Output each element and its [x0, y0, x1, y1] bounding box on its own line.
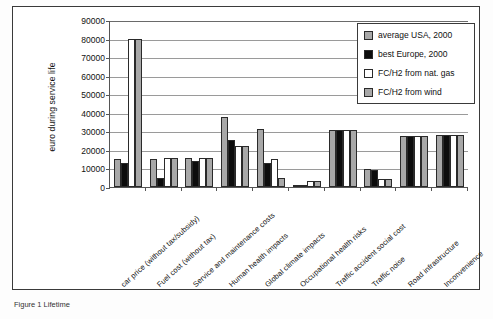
legend-item-label: FC/H2 from nat. gas	[378, 68, 455, 78]
bar	[371, 170, 378, 187]
x-axis-label: Global climate impacts	[263, 230, 327, 289]
bar	[221, 117, 228, 188]
bar	[157, 178, 164, 187]
bar	[378, 179, 385, 187]
x-tick-mark	[395, 187, 396, 191]
x-tick-mark	[181, 187, 182, 191]
bar-group	[253, 21, 289, 187]
bar	[257, 129, 264, 187]
bar	[450, 135, 457, 187]
x-tick-mark	[360, 187, 361, 191]
bar	[314, 181, 321, 187]
chart-frame: euro during service life 010000200003000…	[12, 6, 480, 290]
bar	[264, 163, 271, 187]
legend-swatch-icon	[364, 31, 373, 40]
bar	[192, 161, 199, 187]
bar-group	[217, 21, 253, 187]
bar-group	[182, 21, 218, 187]
x-tick-mark	[288, 187, 289, 191]
bar	[350, 130, 357, 187]
figure-caption: Figure 1 Lifetime	[14, 300, 70, 309]
legend-item-label: average USA, 2000	[378, 30, 452, 40]
chart-legend: average USA, 2000best Europe, 2000FC/H2 …	[357, 23, 475, 104]
bar	[185, 158, 192, 187]
bar	[400, 136, 407, 187]
y-tick-label: 0	[100, 183, 105, 193]
bar	[407, 136, 414, 187]
x-tick-mark	[145, 187, 146, 191]
legend-item[interactable]: average USA, 2000	[364, 30, 469, 40]
bar-group	[289, 21, 325, 187]
legend-swatch-icon	[364, 88, 373, 97]
legend-swatch-icon	[364, 69, 373, 78]
y-tick-label: 60000	[81, 72, 105, 82]
y-tick-label: 50000	[81, 90, 105, 100]
legend-swatch-icon	[364, 50, 373, 59]
bar	[457, 135, 464, 187]
bar	[336, 130, 343, 187]
bar	[307, 181, 314, 187]
bar	[436, 135, 443, 187]
x-axis-labels: car price (without tax/subsidy)Fuel cost…	[109, 193, 468, 289]
bar	[343, 130, 350, 187]
bar	[364, 169, 371, 187]
x-axis-label: Traffic noise	[370, 254, 407, 289]
bar	[278, 178, 285, 187]
bar	[228, 140, 235, 187]
bar	[150, 159, 157, 187]
bar	[414, 136, 421, 187]
bar	[443, 135, 450, 187]
bar	[421, 136, 428, 187]
y-tick-label: 10000	[81, 164, 105, 174]
y-tick-label: 80000	[81, 35, 105, 45]
x-axis-label: Human health impacts	[227, 231, 290, 289]
x-axis-label: Traffic accident social cost	[334, 222, 407, 289]
legend-item-label: best Europe, 2000	[378, 49, 447, 59]
legend-item[interactable]: best Europe, 2000	[364, 49, 469, 59]
bar	[171, 158, 178, 187]
bar	[329, 130, 336, 187]
y-tick-mark	[106, 188, 110, 189]
bar-group	[146, 21, 182, 187]
x-tick-mark	[252, 187, 253, 191]
bar	[164, 158, 171, 187]
y-axis-title: euro during service life	[47, 22, 57, 192]
x-tick-mark	[324, 187, 325, 191]
bar	[206, 158, 213, 187]
figure-container: euro during service life 010000200003000…	[0, 0, 493, 319]
bar	[121, 163, 128, 187]
bar-group	[110, 21, 146, 187]
bar	[128, 39, 135, 187]
x-tick-mark	[467, 187, 468, 191]
bar	[293, 185, 300, 187]
x-tick-mark	[431, 187, 432, 191]
bar	[300, 185, 307, 187]
bar	[199, 158, 206, 187]
y-tick-label: 30000	[81, 127, 105, 137]
legend-item[interactable]: FC/H2 from wind	[364, 87, 469, 97]
bar	[271, 159, 278, 187]
y-tick-label: 40000	[81, 109, 105, 119]
legend-item-label: FC/H2 from wind	[378, 87, 442, 97]
bar-group	[325, 21, 361, 187]
x-axis-label: Occupational health risks	[298, 225, 368, 289]
bar	[242, 146, 249, 187]
x-tick-mark	[216, 187, 217, 191]
y-tick-label: 90000	[81, 16, 105, 26]
bar	[235, 146, 242, 187]
legend-item[interactable]: FC/H2 from nat. gas	[364, 68, 469, 78]
bar	[385, 179, 392, 187]
y-tick-label: 70000	[81, 53, 105, 63]
y-tick-label: 20000	[81, 146, 105, 156]
bar	[135, 39, 142, 187]
bar	[114, 159, 121, 187]
